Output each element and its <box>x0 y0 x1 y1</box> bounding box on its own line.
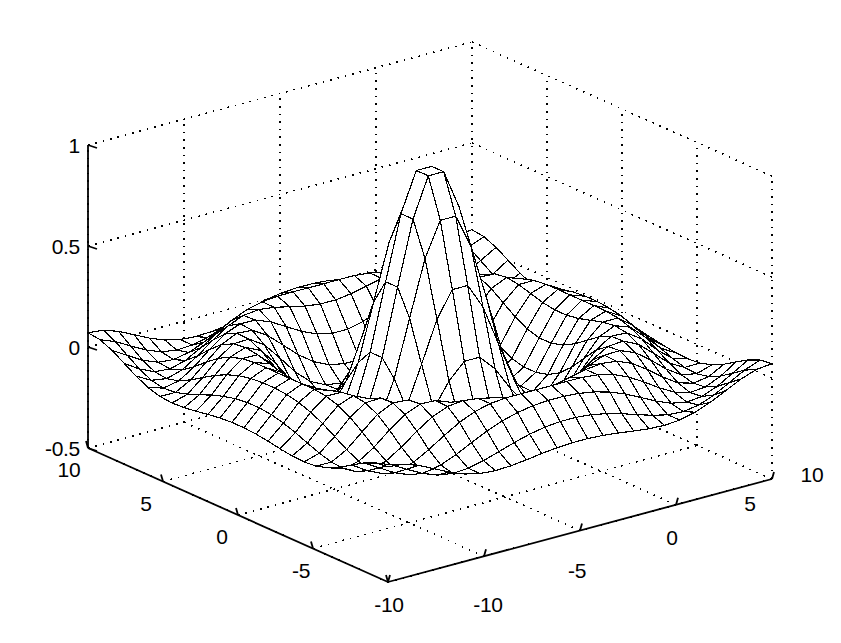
surface-plot <box>0 0 841 643</box>
z-tick-label-0.5: 0.5 <box>52 235 80 259</box>
z-tick-label-0: 0 <box>69 336 80 360</box>
z-tick-label-1: 1 <box>69 134 80 158</box>
mesh-surface <box>88 166 772 475</box>
y-tick-label-m10: -10 <box>374 593 403 617</box>
y-tick-label-10: 10 <box>58 458 81 482</box>
x-tick-label-0: 0 <box>666 526 677 550</box>
y-tick-label-m5: -5 <box>292 559 310 583</box>
y-tick-label-0: 0 <box>216 525 227 549</box>
y-tick-label-5: 5 <box>140 492 151 516</box>
x-tick-label-m5: -5 <box>568 559 586 583</box>
x-tick-label-m10: -10 <box>473 593 502 617</box>
x-tick-label-10: 10 <box>801 463 824 487</box>
x-tick-label-5: 5 <box>744 492 755 516</box>
figure-canvas: 1 0.5 0 -0.5 10 5 0 -5 -10 -10 -5 0 5 10 <box>0 0 841 643</box>
